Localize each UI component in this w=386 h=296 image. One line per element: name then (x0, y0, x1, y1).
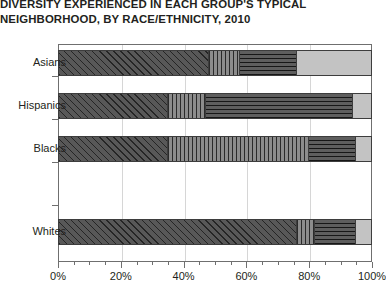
bar-segment-3 (206, 93, 354, 119)
bar-blacks (58, 136, 372, 162)
y-axis-label-whites: Whites (0, 225, 66, 237)
bar-asians (58, 50, 372, 76)
x-axis-minor-tick (231, 262, 232, 265)
x-axis-minor-tick (278, 262, 279, 265)
chart-title: DIVERSITY EXPERIENCED IN EACH GROUP'S TY… (0, 0, 381, 26)
chart-title-line-1: DIVERSITY EXPERIENCED IN EACH GROUP'S TY… (0, 0, 381, 12)
y-axis-tick (52, 205, 58, 206)
x-axis-major-tick (121, 262, 122, 268)
x-axis-label-40pct: 40% (173, 270, 195, 282)
x-axis-label-0pct: 0% (50, 270, 66, 282)
y-axis-tick (52, 162, 58, 163)
y-axis-label-asians: Asians (0, 56, 66, 68)
bar-segment-4 (297, 50, 372, 76)
x-axis-label-100pct: 100% (358, 270, 386, 282)
bar-segment-1 (58, 219, 297, 245)
chart-title-line-2: NEIGHBORHOOD, BY RACE/ETHNICITY, 2010 (0, 12, 381, 27)
x-axis-label-20pct: 20% (110, 270, 132, 282)
y-axis-label-blacks: Blacks (0, 142, 66, 154)
y-axis-label-hispanics: Hispanics (0, 99, 66, 111)
x-axis-minor-tick (215, 262, 216, 265)
x-axis-label-80pct: 80% (298, 270, 320, 282)
bar-segment-2 (209, 50, 240, 76)
bar-segment-3 (315, 219, 356, 245)
y-axis-tick (52, 119, 58, 120)
x-axis-minor-tick (325, 262, 326, 265)
x-axis-major-tick (309, 262, 310, 268)
bar-segment-1 (58, 93, 168, 119)
x-axis-minor-tick (262, 262, 263, 265)
x-axis-minor-tick (89, 262, 90, 265)
x-axis-minor-tick (105, 262, 106, 265)
bar-hispanics (58, 93, 372, 119)
x-axis-major-tick (58, 262, 59, 268)
x-axis-major-tick (372, 262, 373, 268)
x-axis-minor-tick (294, 262, 295, 265)
x-axis-major-tick (246, 262, 247, 268)
bar-segment-4 (356, 219, 372, 245)
bar-segment-2 (168, 93, 206, 119)
x-axis-minor-tick (199, 262, 200, 265)
bar-segment-4 (356, 136, 372, 162)
x-axis-minor-tick (152, 262, 153, 265)
x-axis-minor-tick (168, 262, 169, 265)
bar-segment-1 (58, 136, 168, 162)
bar-segment-2 (168, 136, 309, 162)
y-axis-tick (52, 76, 58, 77)
x-axis-minor-tick (356, 262, 357, 265)
bar-whites (58, 219, 372, 245)
bar-segment-2 (297, 219, 316, 245)
bar-segment-3 (240, 50, 297, 76)
bar-segment-3 (309, 136, 356, 162)
x-axis-minor-tick (341, 262, 342, 265)
x-axis-minor-tick (137, 262, 138, 265)
x-axis-major-tick (184, 262, 185, 268)
x-axis-label-60pct: 60% (235, 270, 257, 282)
x-axis-minor-tick (74, 262, 75, 265)
bar-segment-4 (353, 93, 372, 119)
bar-segment-1 (58, 50, 209, 76)
